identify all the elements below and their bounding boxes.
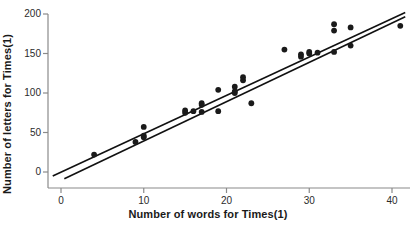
- data-point: [141, 124, 147, 130]
- data-point: [348, 43, 354, 49]
- data-point: [141, 133, 147, 139]
- y-tick-label-0: 0: [15, 166, 41, 177]
- data-point: [306, 49, 312, 55]
- regression-lines: [53, 12, 406, 178]
- y-tick-label-100: 100: [15, 87, 41, 98]
- data-point: [331, 28, 337, 34]
- data-point: [215, 108, 221, 114]
- y-axis-title: Number of letters for Times(1): [0, 0, 14, 228]
- data-point: [199, 100, 205, 106]
- x-tick-label-10: 10: [131, 195, 157, 206]
- y-tick-label-200: 200: [15, 8, 41, 19]
- data-point: [397, 23, 403, 29]
- data-point: [348, 25, 354, 31]
- data-point: [182, 107, 188, 113]
- plot-area: [0, 0, 416, 228]
- data-point: [331, 21, 337, 27]
- data-point: [91, 152, 97, 158]
- y-tick-label-50: 50: [15, 127, 41, 138]
- data-point: [331, 49, 337, 55]
- x-tick-label-20: 20: [214, 195, 240, 206]
- x-tick-label-40: 40: [379, 195, 405, 206]
- data-point: [215, 87, 221, 93]
- data-point: [282, 47, 288, 53]
- x-tick-label-30: 30: [296, 195, 322, 206]
- data-point: [298, 51, 304, 57]
- data-point: [232, 84, 238, 90]
- data-point: [199, 109, 205, 115]
- data-point: [248, 100, 254, 106]
- y-tick-label-150: 150: [15, 48, 41, 59]
- data-point: [133, 139, 139, 145]
- scatter-chart: 050100150200010203040 Number of words fo…: [0, 0, 416, 228]
- x-axis-title: Number of words for Times(1): [0, 208, 416, 220]
- fit-line-upper: [53, 12, 406, 176]
- data-point: [240, 74, 246, 80]
- axis-ticks: [43, 14, 392, 193]
- x-tick-label-0: 0: [48, 195, 74, 206]
- data-point: [315, 50, 321, 56]
- fit-line-lower: [64, 17, 405, 179]
- data-point: [191, 108, 197, 114]
